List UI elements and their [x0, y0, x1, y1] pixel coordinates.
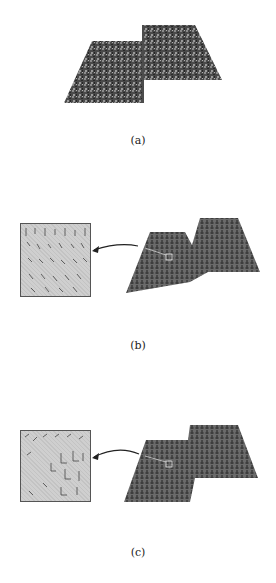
caption-b: (b) [0, 339, 276, 352]
panel-b: (b) [0, 190, 276, 390]
panel-a: (a) [0, 0, 276, 190]
arrow-b [0, 190, 276, 390]
caption-c: (c) [0, 546, 276, 559]
caption-a: (a) [0, 134, 276, 147]
panel-c: (c) [0, 390, 276, 583]
noisy-step-surface [0, 0, 276, 150]
